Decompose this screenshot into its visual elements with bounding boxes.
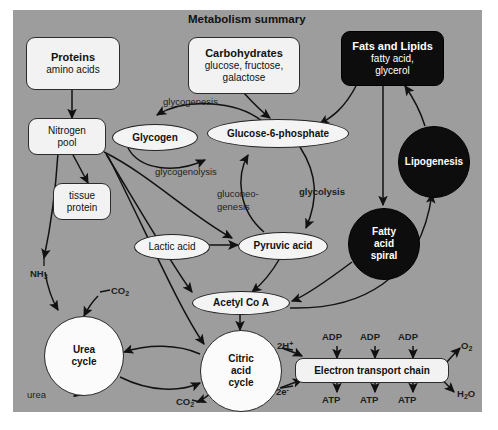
node-glucose-6-phosphate[interactable]: Glucose-6-phosphate xyxy=(207,119,349,148)
label-2e-minus: 2e- xyxy=(276,386,289,397)
node-acetyl-coa-label: Acetyl Co A xyxy=(213,297,269,309)
label-co2-lower: CO2 xyxy=(176,396,194,407)
node-fats-title: Fats and Lipids xyxy=(352,40,433,53)
label-2e-minus-sup: - xyxy=(287,386,289,393)
label-h2o-text: H xyxy=(457,388,464,399)
node-glucose-6-phosphate-label: Glucose-6-phosphate xyxy=(227,128,329,140)
label-co2-upper-sub: 2 xyxy=(125,290,129,297)
metabolism-diagram: Metabolism summary Proteins amino acids … xyxy=(0,0,498,430)
node-lactic-acid[interactable]: Lactic acid xyxy=(134,234,210,260)
node-nitrogen-pool[interactable]: Nitrogen pool xyxy=(28,118,106,155)
label-adp-2: ADP xyxy=(360,331,380,342)
node-tissue-protein-line1: tissue xyxy=(69,190,95,202)
diagram-title: Metabolism summary xyxy=(188,13,306,25)
node-pyruvic-acid-label: Pyruvic acid xyxy=(254,240,313,252)
label-atp-1: ATP xyxy=(322,394,340,405)
node-urea-cycle[interactable]: Urea cycle xyxy=(44,316,124,396)
node-fatty-acid-spiral-line1: Fatty xyxy=(372,226,396,238)
node-citric-acid-cycle-line3: cycle xyxy=(228,377,253,389)
label-adp-1: ADP xyxy=(322,331,342,342)
label-nh3: NH3 xyxy=(30,268,48,279)
label-o2-sub: 2 xyxy=(468,345,472,352)
node-electron-transport-chain-label: Electron transport chain xyxy=(314,365,430,377)
label-2h-plus: 2H+ xyxy=(277,340,293,351)
label-atp-2: ATP xyxy=(360,394,378,405)
node-carbohydrates[interactable]: Carbohydrates glucose, fructose, galacto… xyxy=(188,37,300,94)
node-lipogenesis-label: Lipogenesis xyxy=(405,156,463,168)
node-fatty-acid-spiral-line3: spiral xyxy=(371,250,398,262)
label-glycogenolysis: glycogenolysis xyxy=(155,166,217,177)
label-2h-plus-text: 2H xyxy=(277,340,289,351)
node-fatty-acid-spiral[interactable]: Fatty acid spiral xyxy=(348,208,420,280)
label-glycogenesis: glycogenesis xyxy=(163,96,218,107)
node-lactic-acid-label: Lactic acid xyxy=(148,241,195,253)
label-co2-upper-text: CO xyxy=(111,285,125,296)
node-proteins-subtitle: amino acids xyxy=(46,64,99,76)
label-co2-lower-sub: 2 xyxy=(190,401,194,408)
node-acetyl-coa[interactable]: Acetyl Co A xyxy=(192,291,290,315)
node-carbohydrates-line2: glucose, fructose, xyxy=(205,60,283,72)
label-2h-plus-sup: + xyxy=(289,340,293,347)
node-carbohydrates-line3: galactose xyxy=(223,72,266,84)
label-co2-lower-text: CO xyxy=(176,396,190,407)
node-pyruvic-acid[interactable]: Pyruvic acid xyxy=(238,232,328,260)
label-nh3-text: NH xyxy=(30,268,44,279)
node-carbohydrates-title: Carbohydrates xyxy=(205,47,283,60)
label-h2o: H2O xyxy=(457,388,475,399)
node-tissue-protein[interactable]: tissue protein xyxy=(53,183,111,220)
node-citric-acid-cycle-line2: acid xyxy=(231,365,251,377)
node-glycogen[interactable]: Glycogen xyxy=(112,124,198,151)
label-nh3-sub: 3 xyxy=(44,273,48,280)
label-atp-3: ATP xyxy=(398,394,416,405)
node-fats-and-lipids[interactable]: Fats and Lipids fatty acid, glycerol xyxy=(341,31,444,86)
node-urea-cycle-line2: cycle xyxy=(71,356,96,368)
node-urea-cycle-line1: Urea xyxy=(73,344,95,356)
node-fatty-acid-spiral-line2: acid xyxy=(374,238,394,250)
node-lipogenesis[interactable]: Lipogenesis xyxy=(398,126,470,198)
label-gluconeogenesis-line1: gluconeo- xyxy=(217,188,259,199)
label-adp-3: ADP xyxy=(398,331,418,342)
node-proteins[interactable]: Proteins amino acids xyxy=(26,37,120,90)
label-o2: O2 xyxy=(461,340,472,351)
label-glycolysis: glycolysis xyxy=(299,186,345,197)
label-urea: urea xyxy=(27,389,46,400)
node-proteins-title: Proteins xyxy=(51,51,95,64)
label-gluconeogenesis-line2: genesis xyxy=(217,201,250,212)
node-citric-acid-cycle[interactable]: Citric acid cycle xyxy=(200,330,282,412)
node-nitrogen-pool-line1: Nitrogen xyxy=(48,125,86,137)
node-citric-acid-cycle-line1: Citric xyxy=(228,353,254,365)
node-fats-line2: fatty acid, xyxy=(371,53,414,65)
label-2e-minus-text: 2e xyxy=(276,386,287,397)
node-nitrogen-pool-line2: pool xyxy=(58,137,77,149)
label-h2o-tail: O xyxy=(468,388,475,399)
node-glycogen-label: Glycogen xyxy=(132,132,178,144)
label-co2-upper: CO2 xyxy=(111,285,129,296)
label-h2o-sub: 2 xyxy=(464,393,468,400)
node-tissue-protein-line2: protein xyxy=(67,202,98,214)
node-fats-line3: glycerol xyxy=(375,65,409,77)
node-electron-transport-chain[interactable]: Electron transport chain xyxy=(295,358,449,383)
